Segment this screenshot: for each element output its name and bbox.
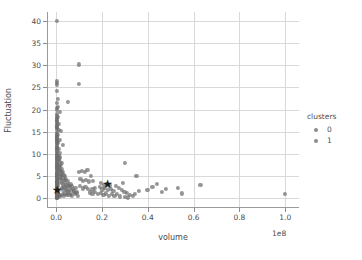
scatter-point bbox=[117, 186, 121, 190]
scatter-point bbox=[63, 180, 67, 184]
scatter-point bbox=[78, 177, 82, 181]
scatter-point bbox=[66, 190, 70, 194]
scatter-point bbox=[58, 193, 62, 197]
scatter-point bbox=[60, 178, 64, 182]
scatter-point bbox=[64, 183, 68, 187]
scatter-point bbox=[123, 161, 127, 165]
scatter-point bbox=[57, 158, 61, 162]
y-tick-mark bbox=[43, 154, 47, 155]
scatter-point bbox=[64, 177, 68, 181]
scatter-point bbox=[61, 170, 65, 174]
scatter-point bbox=[72, 189, 76, 193]
scatter-point bbox=[69, 192, 73, 196]
scatter-point bbox=[60, 167, 64, 171]
scatter-point bbox=[77, 82, 81, 86]
legend-item[interactable]: 1 bbox=[307, 135, 336, 146]
scatter-point bbox=[81, 178, 85, 182]
y-tick-label: 20 bbox=[31, 105, 41, 114]
scatter-point bbox=[103, 186, 107, 190]
scatter-point bbox=[175, 186, 179, 190]
gridline-horizontal bbox=[47, 43, 299, 44]
legend-item-label: 0 bbox=[327, 125, 332, 134]
scatter-point bbox=[60, 181, 64, 185]
y-axis-label: Fluctuation bbox=[2, 12, 14, 208]
scatter-point bbox=[121, 181, 125, 185]
scatter-point bbox=[85, 168, 89, 172]
scatter-point bbox=[106, 188, 110, 192]
left-spine bbox=[47, 12, 48, 208]
scatter-point bbox=[61, 187, 65, 191]
scatter-point bbox=[78, 184, 82, 188]
x-tick-mark bbox=[285, 208, 286, 212]
scatter-point bbox=[115, 192, 119, 196]
scatter-point bbox=[57, 188, 61, 192]
scatter-point bbox=[62, 193, 66, 197]
legend-item[interactable]: 0 bbox=[307, 124, 336, 135]
y-tick-mark bbox=[43, 198, 47, 199]
scatter-point bbox=[180, 191, 184, 195]
scatter-point bbox=[58, 110, 62, 114]
y-tick-mark bbox=[43, 43, 47, 44]
scatter-point bbox=[63, 178, 67, 182]
legend-title: clusters bbox=[307, 112, 336, 121]
scatter-point bbox=[57, 168, 61, 172]
scatter-point bbox=[58, 165, 62, 169]
scatter-point bbox=[68, 182, 72, 186]
scatter-point bbox=[58, 155, 62, 159]
scatter-point bbox=[73, 192, 77, 196]
x-tick-mark bbox=[194, 208, 195, 212]
y-tick-mark bbox=[43, 65, 47, 66]
y-tick-label: 35 bbox=[31, 39, 41, 48]
centroid-star-icon: ★ bbox=[102, 178, 113, 190]
scatter-point bbox=[64, 188, 68, 192]
scatter-point bbox=[58, 138, 62, 142]
x-tick-label: 1.0 bbox=[279, 213, 291, 222]
scatter-point bbox=[60, 171, 64, 175]
scatter-point bbox=[80, 169, 84, 173]
gridline-horizontal bbox=[47, 65, 299, 66]
scatter-point bbox=[75, 189, 79, 193]
scatter-point bbox=[82, 170, 86, 174]
x-tick-mark bbox=[56, 208, 57, 212]
scatter-point bbox=[90, 192, 94, 196]
scatter-point bbox=[59, 163, 63, 167]
scatter-point bbox=[93, 186, 97, 190]
legend: clusters 01 bbox=[307, 112, 336, 146]
x-tick-label: 0.4 bbox=[142, 213, 154, 222]
x-tick-label: 0.0 bbox=[50, 213, 62, 222]
x-axis-label: volume bbox=[47, 233, 299, 242]
y-tick-label: 10 bbox=[31, 149, 41, 158]
scatter-point bbox=[87, 179, 91, 183]
y-tick-label: 5 bbox=[36, 172, 41, 181]
scatter-point bbox=[155, 182, 159, 186]
scatter-point bbox=[150, 185, 154, 189]
x-tick-label: 0.6 bbox=[188, 213, 200, 222]
scatter-point bbox=[125, 191, 129, 195]
scatter-point bbox=[111, 189, 115, 193]
gridline-horizontal bbox=[47, 198, 299, 199]
x-axis-offset-text: 1e8 bbox=[272, 229, 286, 238]
scatter-point bbox=[84, 178, 88, 182]
scatter-point bbox=[61, 183, 65, 187]
scatter-point bbox=[59, 177, 63, 181]
scatter-point bbox=[58, 169, 62, 173]
scatter-point bbox=[74, 191, 78, 195]
bottom-spine bbox=[47, 207, 299, 208]
scatter-point bbox=[58, 160, 62, 164]
scatter-point bbox=[122, 189, 126, 193]
scatter-point bbox=[93, 190, 97, 194]
scatter-point bbox=[88, 190, 92, 194]
legend-marker-icon bbox=[314, 139, 318, 143]
y-tick-mark bbox=[43, 132, 47, 133]
scatter-point bbox=[71, 187, 75, 191]
scatter-point bbox=[109, 187, 113, 191]
scatter-point bbox=[70, 184, 74, 188]
scatter-point bbox=[65, 193, 69, 197]
y-tick-mark bbox=[43, 110, 47, 111]
scatter-point bbox=[77, 170, 81, 174]
y-tick-mark bbox=[43, 176, 47, 177]
scatter-point bbox=[60, 161, 64, 165]
scatter-point bbox=[120, 188, 124, 192]
legend-marker-icon bbox=[314, 128, 318, 132]
scatter-point bbox=[107, 183, 111, 187]
